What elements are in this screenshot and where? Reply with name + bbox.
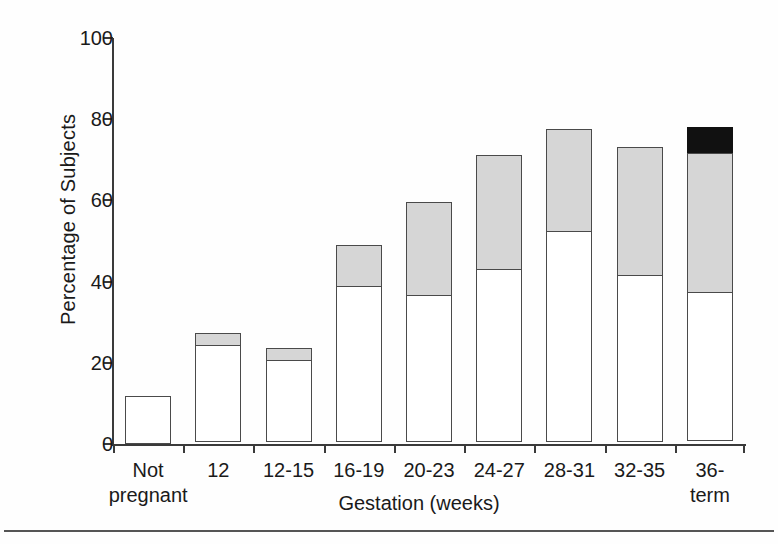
bar-6 (476, 155, 522, 444)
chart-figure: Percentage of Subjects 020406080100 Not … (0, 0, 778, 544)
x-axis-title: Gestation (weeks) (0, 492, 778, 515)
x-axis-label-5: 20-23 (403, 458, 454, 483)
bar-segment-white-segment (687, 292, 733, 441)
y-axis-tick-label: 60 (91, 189, 113, 212)
x-axis-tick (675, 444, 677, 453)
y-axis-tick-label: 20 (91, 351, 113, 374)
bar-segment-white-segment (266, 360, 312, 443)
bar-segment-black-segment (687, 127, 733, 154)
x-axis-tick (743, 444, 745, 453)
y-axis-tick-label: 100 (80, 27, 113, 50)
bar-segment-white-segment (476, 269, 522, 442)
bar-segment-gray-segment (546, 129, 592, 233)
y-axis-tick-label: 80 (91, 108, 113, 131)
x-axis-label-2: 12 (207, 458, 229, 483)
x-axis-tick (183, 444, 185, 453)
bar-segment-gray-segment (617, 147, 663, 277)
y-axis-tick-label: 0 (102, 433, 113, 456)
bar-segment-white-segment (546, 231, 592, 442)
bar-segment-gray-segment (336, 245, 382, 287)
bottom-divider (4, 530, 774, 532)
bar-9 (687, 127, 733, 444)
bar-segment-gray-segment (687, 153, 733, 294)
x-axis-tick (324, 444, 326, 453)
x-axis-label-4: 16-19 (333, 458, 384, 483)
y-axis-tick-label: 40 (91, 270, 113, 293)
x-axis-tick (394, 444, 396, 453)
y-axis-line (112, 38, 114, 445)
bar-5 (406, 202, 452, 444)
bar-segment-white-segment (125, 396, 171, 444)
x-axis-label-3: 12-15 (263, 458, 314, 483)
x-axis-tick (605, 444, 607, 453)
bar-2 (195, 333, 241, 444)
bar-segment-white-segment (195, 345, 241, 443)
bar-segment-white-segment (336, 286, 382, 443)
bar-segment-white-segment (406, 295, 452, 443)
bar-3 (266, 348, 312, 444)
bar-segment-white-segment (617, 275, 663, 443)
x-axis-tick (253, 444, 255, 453)
x-axis-label-8: 32-35 (614, 458, 665, 483)
x-axis-label-7: 28-31 (544, 458, 595, 483)
bar-4 (336, 245, 382, 444)
y-axis-title: Percentage of Subjects (57, 60, 80, 380)
bar-8 (617, 147, 663, 444)
bar-1 (125, 396, 171, 444)
x-axis-tick (113, 444, 115, 453)
bar-7 (546, 129, 592, 444)
x-axis-tick (534, 444, 536, 453)
plot-area: 020406080100 (113, 38, 745, 444)
bar-segment-gray-segment (406, 202, 452, 296)
bar-segment-gray-segment (476, 155, 522, 272)
x-axis-label-6: 24-27 (474, 458, 525, 483)
x-axis-tick (464, 444, 466, 453)
x-axis-line (112, 444, 746, 446)
